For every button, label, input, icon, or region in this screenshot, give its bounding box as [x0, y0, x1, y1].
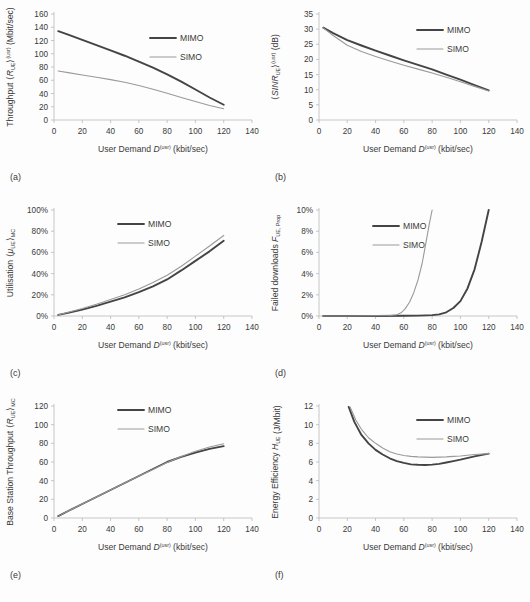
y-tick-label: 100%: [27, 206, 48, 215]
x-tick-label: 120: [217, 525, 231, 534]
x-tick-label: 0: [52, 323, 57, 332]
y-tick-label: 25: [304, 40, 314, 49]
y-tick-label: 40: [39, 477, 49, 486]
y-tick-label: 40%: [32, 270, 48, 279]
y-tick-label: 5: [308, 101, 313, 110]
x-tick-label: 80: [428, 323, 438, 332]
x-axis-title: User Demand D(usr) (kbit/sec): [363, 144, 473, 154]
y-tick-label: 160: [34, 10, 48, 19]
y-tick-label: 0%: [301, 312, 313, 321]
x-tick-label: 120: [482, 525, 496, 534]
legend-label-simo: SIMO: [148, 424, 170, 434]
x-tick-label: 40: [106, 127, 116, 136]
x-tick-label: 60: [399, 525, 409, 534]
x-tick-label: 100: [454, 323, 468, 332]
y-tick-label: 10: [304, 86, 314, 95]
x-tick-label: 80: [163, 525, 173, 534]
y-tick-label: 10%: [297, 206, 313, 215]
x-tick-label: 100: [454, 525, 468, 534]
y-tick-label: 60%: [32, 248, 48, 257]
x-tick-label: 0: [317, 127, 322, 136]
panel-f-plot: 024681012020406080100120140MIMOSIMOUser …: [265, 392, 530, 570]
x-tick-label: 140: [510, 323, 524, 332]
legend-label-mimo: MIMO: [447, 25, 471, 35]
y-axis-title: Utilisation ⟨μUE⟩MC: [5, 229, 16, 297]
y-tick-label: 4: [308, 477, 313, 486]
x-axis-title: User Demand D(usr) (kbit/sec): [98, 144, 208, 154]
x-tick-label: 120: [482, 127, 496, 136]
y-axis-title: Base Station Throughput ⟨RUE⟩MC: [5, 398, 16, 526]
y-tick-label: 40: [39, 90, 49, 99]
panel-a-plot: 020406080100120140160020406080100120140M…: [0, 0, 265, 172]
series-line-simo: [58, 71, 223, 109]
y-tick-label: 0: [308, 116, 313, 125]
y-tick-label: 15: [304, 71, 314, 80]
panel-letter-f: (f): [275, 570, 284, 580]
panel-c: 0%20%40%60%80%100%020406080100120140MIMO…: [0, 196, 265, 396]
y-tick-label: 100: [34, 50, 48, 59]
x-tick-label: 40: [106, 525, 116, 534]
legend-label-mimo: MIMO: [180, 33, 204, 43]
legend-label-simo: SIMO: [148, 238, 170, 248]
y-tick-label: 60: [39, 76, 49, 85]
y-axis-title: ⟨SINRUE⟩(usr) (dB): [270, 34, 281, 100]
x-tick-label: 0: [317, 525, 322, 534]
y-tick-label: 30: [304, 25, 314, 34]
figure-container: 020406080100120140160020406080100120140M…: [0, 0, 530, 602]
y-tick-label: 120: [34, 402, 48, 411]
panel-a: 020406080100120140160020406080100120140M…: [0, 0, 265, 200]
series-line-mimo: [323, 28, 488, 91]
y-tick-label: 2: [308, 495, 313, 504]
series-line-simo: [58, 235, 223, 315]
x-tick-label: 140: [245, 525, 259, 534]
y-axis-title: Failed downloads FUE, Prop: [270, 215, 281, 311]
y-tick-label: 80: [39, 63, 49, 72]
x-tick-label: 20: [343, 127, 353, 136]
x-tick-label: 60: [399, 127, 409, 136]
x-axis-title: User Demand D(usr) (kbit/sec): [98, 340, 208, 350]
x-axis-title: User Demand D(usr) (kbit/sec): [363, 542, 473, 552]
x-axis-title: User Demand D(usr) (kbit/sec): [98, 542, 208, 552]
x-tick-label: 120: [217, 323, 231, 332]
x-tick-label: 100: [189, 525, 203, 534]
legend-label-simo: SIMO: [180, 52, 202, 62]
y-tick-label: 6: [308, 458, 313, 467]
panel-letter-a: (a): [10, 172, 21, 182]
x-tick-label: 100: [189, 323, 203, 332]
series-line-mimo: [58, 241, 223, 315]
x-tick-label: 20: [78, 127, 88, 136]
series-line-simo: [58, 444, 223, 516]
y-tick-label: 20%: [32, 291, 48, 300]
legend-label-simo: SIMO: [447, 44, 469, 54]
y-tick-label: 0: [43, 116, 48, 125]
y-tick-label: 100: [34, 421, 48, 430]
x-tick-label: 20: [343, 525, 353, 534]
y-tick-label: 6%: [301, 248, 313, 257]
y-axis-title: Throughput ⟨RUE⟩(usr) (Mbit/sec): [5, 7, 16, 126]
x-tick-label: 140: [245, 323, 259, 332]
x-tick-label: 80: [163, 323, 173, 332]
panel-letter-d: (d): [275, 368, 286, 378]
legend-label-mimo: MIMO: [148, 219, 172, 229]
y-tick-label: 20: [39, 103, 49, 112]
y-tick-label: 12: [304, 402, 314, 411]
y-tick-label: 8: [308, 439, 313, 448]
panel-f: 024681012020406080100120140MIMOSIMOUser …: [265, 392, 530, 598]
legend-label-simo: SIMO: [447, 434, 469, 444]
x-tick-label: 140: [510, 525, 524, 534]
x-tick-label: 0: [52, 525, 57, 534]
x-tick-label: 20: [78, 323, 88, 332]
x-tick-label: 20: [78, 525, 88, 534]
y-tick-label: 0: [43, 514, 48, 523]
x-tick-label: 140: [510, 127, 524, 136]
x-tick-label: 140: [245, 127, 259, 136]
x-tick-label: 120: [482, 323, 496, 332]
x-tick-label: 40: [371, 525, 381, 534]
x-tick-label: 0: [52, 127, 57, 136]
y-tick-label: 80: [39, 439, 49, 448]
x-tick-label: 0: [317, 323, 322, 332]
y-tick-label: 8%: [301, 227, 313, 236]
x-tick-label: 40: [371, 323, 381, 332]
panel-b: 05101520253035020406080100120140MIMOSIMO…: [265, 0, 530, 200]
y-tick-label: 20: [39, 495, 49, 504]
